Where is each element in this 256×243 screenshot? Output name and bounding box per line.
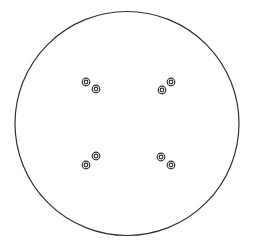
hole-inner-ring (160, 88, 164, 92)
hole-outer-ring (82, 78, 90, 86)
hole-inner-ring (169, 163, 173, 167)
hole-inner-ring (94, 154, 98, 158)
mounting-hole-icon (167, 78, 175, 86)
hole-inner-ring (169, 80, 173, 84)
hole-pair-bottom-right (157, 153, 175, 169)
mounting-hole-icon (157, 153, 165, 161)
circular-plate-outline (15, 12, 239, 236)
hole-inner-ring (159, 155, 163, 159)
mounting-hole-icon (82, 78, 90, 86)
hole-outer-ring (92, 152, 100, 160)
hole-inner-ring (84, 163, 88, 167)
diagram-canvas (0, 0, 256, 243)
hole-pair-bottom-left (82, 152, 100, 169)
mounting-holes (82, 78, 175, 169)
hole-outer-ring (82, 161, 90, 169)
mounting-hole-icon (82, 161, 90, 169)
hole-outer-ring (167, 161, 175, 169)
hole-inner-ring (84, 80, 88, 84)
mounting-hole-icon (167, 161, 175, 169)
hole-outer-ring (167, 78, 175, 86)
mounting-hole-icon (92, 152, 100, 160)
hole-outer-ring (158, 86, 166, 94)
hole-outer-ring (92, 85, 100, 93)
mounting-hole-icon (92, 85, 100, 93)
hole-outer-ring (157, 153, 165, 161)
hole-pair-top-left (82, 78, 100, 93)
hole-pair-top-right (158, 78, 175, 94)
mounting-hole-icon (158, 86, 166, 94)
hole-inner-ring (94, 87, 98, 91)
circular-plate-drawing (0, 0, 256, 243)
